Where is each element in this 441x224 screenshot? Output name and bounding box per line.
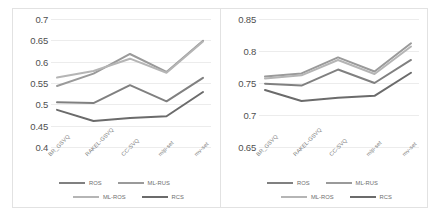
legend-item-ml-rus[interactable]: ML-RUS bbox=[118, 180, 170, 186]
legend-swatch-icon bbox=[281, 196, 307, 198]
legend-right: ROSML-RUS ML-ROSRCS bbox=[241, 177, 416, 205]
legend-swatch-icon bbox=[267, 182, 293, 184]
y-tick-label: 0.85 bbox=[238, 14, 256, 25]
y-tick-label: 0.45 bbox=[30, 120, 48, 131]
y-tick-label: 0.65 bbox=[30, 35, 48, 46]
y-axis-labels-left: 0.70.650.60.550.50.450.4 bbox=[15, 19, 51, 147]
legend-swatch-icon bbox=[326, 182, 352, 184]
legend-label: ML-ROS bbox=[311, 194, 334, 200]
legend-left: ROSML-RUS ML-ROSRCS bbox=[33, 177, 208, 205]
y-tick-label: 0.7 bbox=[243, 110, 256, 121]
legend-label: ML-RUS bbox=[148, 180, 170, 186]
legend-label: ML-RUS bbox=[356, 180, 378, 186]
legend-item-rcs[interactable]: RCS bbox=[350, 194, 392, 200]
y-tick-label: 0.8 bbox=[243, 46, 256, 57]
legend-swatch-icon bbox=[118, 182, 144, 184]
legend-item-ml-rus[interactable]: ML-RUS bbox=[326, 180, 378, 186]
chart-panels: 0.70.650.60.550.50.450.4 BR_GSVQRAKEL-GS… bbox=[12, 8, 429, 208]
legend-label: RCS bbox=[172, 194, 184, 200]
series-line-ml-rus bbox=[57, 41, 203, 86]
y-tick-label: 0.5 bbox=[35, 99, 48, 110]
series-line-rcs bbox=[57, 92, 203, 121]
legend-label: ROS bbox=[297, 180, 310, 186]
legend-swatch-icon bbox=[73, 196, 99, 198]
y-tick-label: 0.4 bbox=[35, 142, 48, 153]
legend-row-1: ROSML-RUS bbox=[33, 177, 234, 189]
legend-row-2: ML-ROSRCS bbox=[241, 191, 441, 203]
legend-row-2: ML-ROSRCS bbox=[33, 191, 248, 203]
y-tick-label: 0.75 bbox=[238, 78, 256, 89]
series-lines-left bbox=[51, 19, 211, 147]
y-tick-label: 0.7 bbox=[35, 14, 48, 25]
legend-item-ros[interactable]: ROS bbox=[267, 180, 310, 186]
y-axis-labels-right: 0.850.80.750.70.65 bbox=[223, 19, 259, 147]
chart-panel-left: 0.70.650.60.550.50.450.4 BR_GSVQRAKEL-GS… bbox=[12, 8, 220, 208]
figure-root: 0.70.650.60.550.50.450.4 BR_GSVQRAKEL-GS… bbox=[0, 0, 441, 224]
series-line-ros bbox=[57, 78, 203, 103]
legend-swatch-icon bbox=[59, 182, 85, 184]
plot-area-left bbox=[51, 19, 211, 147]
y-tick-label: 0.55 bbox=[30, 78, 48, 89]
chart-panel-right: 0.850.80.750.70.65 BR_GSVQRAKEL-GSVQCC-S… bbox=[220, 8, 428, 208]
legend-item-ros[interactable]: ROS bbox=[59, 180, 102, 186]
legend-item-ml-ros[interactable]: ML-ROS bbox=[73, 194, 126, 200]
y-tick-label: 0.6 bbox=[35, 56, 48, 67]
legend-row-1: ROSML-RUS bbox=[241, 177, 441, 189]
legend-item-rcs[interactable]: RCS bbox=[142, 194, 184, 200]
legend-label: ML-ROS bbox=[103, 194, 126, 200]
legend-swatch-icon bbox=[350, 196, 376, 198]
legend-label: RCS bbox=[380, 194, 392, 200]
plot-area-right bbox=[259, 19, 419, 147]
legend-label: ROS bbox=[89, 180, 102, 186]
series-lines-right bbox=[259, 19, 419, 147]
series-line-ml-ros bbox=[57, 42, 203, 78]
y-tick-label: 0.65 bbox=[238, 142, 256, 153]
legend-swatch-icon bbox=[142, 196, 168, 198]
legend-item-ml-ros[interactable]: ML-ROS bbox=[281, 194, 334, 200]
